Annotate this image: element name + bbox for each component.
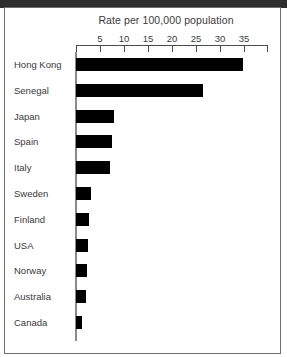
value-axis-tick-label: 30 [215, 33, 226, 44]
bar-row: Finland [0, 210, 287, 235]
bar-category-label: Canada [14, 317, 70, 328]
value-axis-tick-label: 15 [143, 33, 154, 44]
value-axis-tick [220, 46, 221, 52]
bar-category-label: Hong Kong [14, 59, 70, 70]
value-axis-tick [196, 46, 197, 52]
value-axis-tick-label: 35 [239, 33, 250, 44]
value-axis-tick [148, 46, 149, 52]
value-axis-tick-label: 25 [191, 33, 202, 44]
chart-screenshot: Rate per 100,000 population 510152025303… [0, 0, 287, 357]
bar [76, 213, 89, 226]
bar-row: Hong Kong [0, 55, 287, 80]
bar-category-label: Norway [14, 265, 70, 276]
bar-row: Spain [0, 132, 287, 157]
bar-category-label: Finland [14, 214, 70, 225]
bar [76, 264, 87, 277]
bar-row: Sweden [0, 184, 287, 209]
bar [76, 135, 112, 148]
value-axis-tick [100, 46, 101, 52]
bar-row: USA [0, 236, 287, 261]
bar-category-label: Australia [14, 291, 70, 302]
bar [76, 316, 82, 329]
value-axis-tick-label: 10 [119, 33, 130, 44]
bar [76, 58, 243, 71]
bar-category-label: Sweden [14, 188, 70, 199]
bar-row: Norway [0, 261, 287, 286]
bar-row: Japan [0, 107, 287, 132]
chart-title: Rate per 100,000 population [76, 14, 256, 26]
bar-category-label: Italy [14, 162, 70, 173]
bar-category-label: Japan [14, 111, 70, 122]
bar [76, 187, 91, 200]
bar [76, 239, 88, 252]
value-axis-tick [124, 46, 125, 52]
bar-row: Canada [0, 313, 287, 338]
bar-row: Italy [0, 158, 287, 183]
bar-row: Senegal [0, 81, 287, 106]
value-axis-tick-label: 20 [167, 33, 178, 44]
bar-category-label: Senegal [14, 85, 70, 96]
bar [76, 290, 86, 303]
value-axis-cap-right [267, 45, 268, 52]
bar-chart: Rate per 100,000 population 510152025303… [0, 0, 287, 357]
bar-row: Australia [0, 287, 287, 312]
value-axis-cap-left [76, 45, 77, 52]
value-axis-tick [244, 46, 245, 52]
value-axis-tick-label: 5 [97, 33, 102, 44]
bar-category-label: USA [14, 240, 70, 251]
value-axis-tick [172, 46, 173, 52]
bar [76, 84, 203, 97]
bar [76, 161, 110, 174]
bar-category-label: Spain [14, 136, 70, 147]
bar [76, 110, 114, 123]
